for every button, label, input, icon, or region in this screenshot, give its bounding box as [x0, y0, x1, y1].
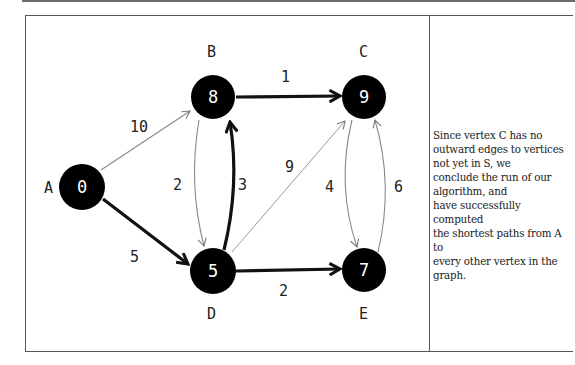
weight-D-E: 2	[279, 282, 288, 300]
edge-D-B	[224, 122, 234, 250]
weight-E-C: 6	[394, 178, 403, 196]
caption-line: have successfully computed	[433, 198, 573, 226]
svg-text:8: 8	[208, 87, 218, 107]
label-A: A	[44, 179, 53, 197]
weight-D-B: 3	[238, 176, 247, 194]
weight-A-D: 5	[130, 248, 139, 266]
label-E: E	[359, 305, 368, 323]
caption-line: algorithm, and	[433, 184, 573, 198]
caption-line: every other vertex in the	[433, 254, 573, 268]
node-D: 5	[190, 248, 236, 294]
weight-C-E: 4	[325, 178, 334, 196]
caption-line: not yet in S, we	[433, 156, 573, 170]
node-C: 9	[342, 75, 386, 119]
caption-text: Since vertex C has no outward edges to v…	[433, 128, 573, 282]
label-B: B	[207, 43, 216, 61]
node-B: 8	[191, 75, 235, 119]
edge-B-C	[236, 96, 340, 97]
label-C: C	[359, 43, 368, 61]
svg-text:5: 5	[208, 261, 218, 281]
caption-line: the shortest paths from A to	[433, 226, 573, 254]
label-D: D	[207, 305, 216, 323]
edge-E-C	[375, 120, 385, 252]
edge-A-D	[103, 199, 188, 264]
caption-line: Since vertex C has no	[433, 128, 573, 142]
svg-text:9: 9	[359, 87, 369, 107]
svg-text:7: 7	[359, 260, 369, 280]
weight-B-D: 2	[173, 176, 182, 194]
node-E: 7	[342, 248, 386, 292]
edge-C-E	[345, 120, 357, 247]
caption-line: outward edges to vertices	[433, 142, 573, 156]
weight-B-C: 1	[281, 68, 290, 86]
caption-line: conclude the run of our	[433, 170, 573, 184]
svg-text:0: 0	[77, 177, 87, 197]
edge-B-D	[195, 120, 204, 246]
edge-D-E	[236, 269, 340, 271]
caption-line: graph.	[433, 268, 573, 282]
weight-A-B: 10	[130, 118, 148, 136]
weight-D-C: 9	[285, 158, 294, 176]
node-A: 0	[59, 164, 105, 210]
